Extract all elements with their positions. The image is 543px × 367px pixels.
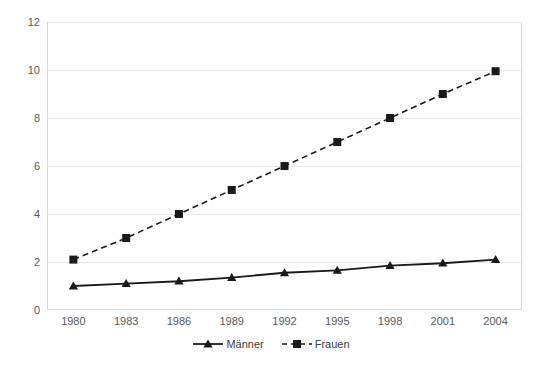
y-tick-label: 8: [34, 113, 40, 124]
legend: MännerFrauen: [0, 338, 543, 350]
series-layer: [47, 22, 522, 310]
marker-square: [69, 256, 77, 264]
marker-square: [333, 138, 341, 146]
x-tick-label: 1980: [61, 316, 85, 327]
legend-solid-triangle-icon: [193, 338, 223, 350]
y-tick-label: 2: [34, 257, 40, 268]
x-tick-label: 1983: [114, 316, 138, 327]
marker-square: [122, 234, 130, 242]
marker-square: [386, 114, 394, 122]
marker-square: [228, 186, 236, 194]
marker-square: [492, 67, 500, 75]
y-tick-label: 12: [28, 17, 40, 28]
x-tick-label: 1992: [272, 316, 296, 327]
x-tick-label: 1986: [167, 316, 191, 327]
y-tick-label: 4: [34, 209, 40, 220]
y-axis: 024681012: [0, 22, 40, 310]
legend-item-männer[interactable]: Männer: [193, 338, 263, 350]
y-tick-label: 10: [28, 65, 40, 76]
marker-square: [439, 90, 447, 98]
legend-label: Männer: [226, 339, 263, 350]
marker-square: [281, 162, 289, 170]
x-tick-label: 1989: [219, 316, 243, 327]
x-axis: 198019831986198919921995199820012004: [47, 316, 522, 334]
series-frauen: [69, 67, 499, 263]
x-tick-label: 1995: [325, 316, 349, 327]
x-tick-label: 2004: [483, 316, 507, 327]
y-tick-label: 6: [34, 161, 40, 172]
x-tick-label: 1998: [378, 316, 402, 327]
series-männer: [69, 255, 500, 289]
legend-dashed-square-icon: [282, 338, 312, 350]
line-chart: 024681012 198019831986198919921995199820…: [0, 0, 543, 367]
y-tick-label: 0: [34, 305, 40, 316]
marker-square: [175, 210, 183, 218]
x-tick-label: 2001: [431, 316, 455, 327]
legend-item-frauen[interactable]: Frauen: [282, 338, 350, 350]
legend-label: Frauen: [315, 339, 350, 350]
